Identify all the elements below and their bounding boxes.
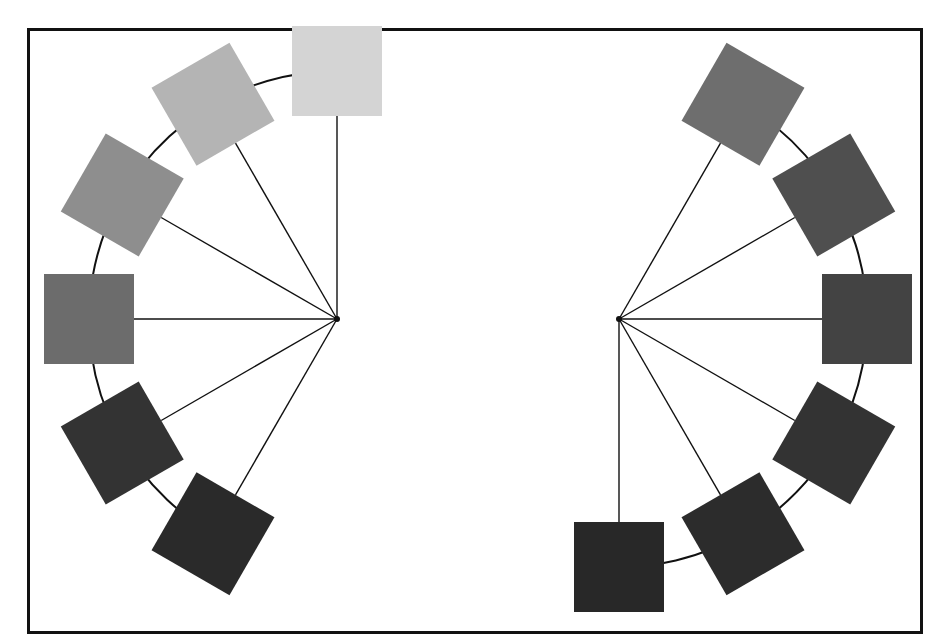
spoke-line: [161, 319, 337, 421]
square-node: [61, 134, 184, 257]
square-node: [292, 26, 382, 116]
radial-fan-diagram: [0, 0, 936, 644]
square-node: [44, 274, 134, 364]
hub-point: [334, 316, 340, 322]
spoke-line: [236, 143, 338, 319]
square-node: [152, 43, 275, 166]
square-node: [772, 382, 895, 505]
spoke-line: [619, 319, 795, 421]
square-node: [822, 274, 912, 364]
square-node: [682, 472, 805, 595]
square-node: [152, 472, 275, 595]
right-fan: [574, 43, 912, 612]
spoke-line: [619, 319, 721, 495]
spoke-line: [161, 218, 337, 320]
square-node: [574, 522, 664, 612]
spoke-line: [619, 218, 795, 320]
hub-point: [616, 316, 622, 322]
spoke-line: [236, 319, 338, 495]
square-node: [772, 134, 895, 257]
square-node: [682, 43, 805, 166]
square-node: [61, 382, 184, 505]
left-fan: [44, 26, 382, 595]
spoke-line: [619, 143, 721, 319]
